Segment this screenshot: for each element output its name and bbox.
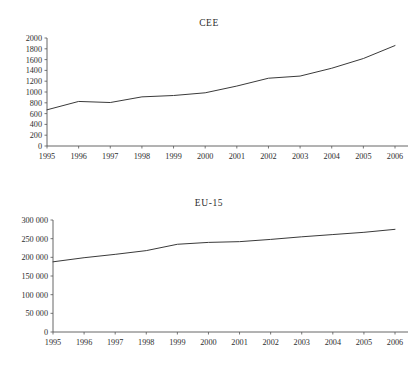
x-tick-label: 1995 [45, 338, 61, 347]
y-tick-label: 1800 [26, 45, 42, 54]
x-tick-label: 1999 [165, 152, 181, 161]
x-tick-label: 1996 [70, 152, 86, 161]
y-tick-label: 1400 [26, 66, 42, 75]
x-tick-label: 1999 [169, 338, 185, 347]
x-tick-label: 2004 [324, 152, 340, 161]
x-tick-label: 2001 [229, 152, 245, 161]
x-tick-label: 2006 [387, 338, 403, 347]
x-tick-label: 2005 [356, 338, 372, 347]
y-tick-label: 150 000 [21, 272, 48, 281]
plot-area-cee: 0200400600800100012001400160018002000199… [0, 30, 418, 200]
line-chart-cee: 0200400600800100012001400160018002000199… [0, 30, 418, 200]
x-tick-label: 2000 [197, 152, 213, 161]
y-tick-label: 600 [30, 110, 42, 119]
x-tick-label: 2003 [294, 338, 310, 347]
y-tick-label: 800 [30, 99, 42, 108]
y-tick-label: 400 [30, 120, 42, 129]
chart-panel-cee: CEE 020040060080010001200140016001800200… [0, 0, 418, 190]
x-tick-label: 2002 [262, 338, 278, 347]
x-tick-label: 2005 [355, 152, 371, 161]
x-tick-label: 2002 [260, 152, 276, 161]
line-chart-eu15: 050 000100 000150 000200 000250 000300 0… [0, 210, 418, 375]
x-tick-label: 2003 [292, 152, 308, 161]
y-tick-label: 0 [38, 142, 42, 151]
chart-panel-eu15: EU-15 050 000100 000150 000200 000250 00… [0, 190, 418, 376]
y-tick-label: 50 000 [25, 309, 48, 318]
y-tick-label: 200 [30, 131, 42, 140]
data-series-line [53, 229, 395, 261]
y-tick-label: 1000 [26, 88, 42, 97]
y-tick-label: 250 000 [21, 235, 48, 244]
plot-area-eu15: 050 000100 000150 000200 000250 000300 0… [0, 210, 418, 375]
x-tick-label: 2001 [231, 338, 247, 347]
x-tick-label: 1997 [107, 338, 123, 347]
y-tick-label: 200 000 [21, 253, 48, 262]
y-tick-label: 100 000 [21, 291, 48, 300]
y-tick-label: 0 [44, 328, 48, 337]
x-tick-label: 1998 [138, 338, 154, 347]
x-tick-label: 2004 [325, 338, 341, 347]
y-tick-label: 1200 [26, 77, 42, 86]
x-tick-label: 1995 [39, 152, 55, 161]
chart-title-cee: CEE [0, 0, 418, 30]
chart-title-eu15: EU-15 [0, 190, 418, 210]
x-tick-label: 1997 [102, 152, 118, 161]
y-tick-label: 2000 [26, 34, 42, 43]
data-series-line [47, 46, 395, 110]
y-tick-label: 300 000 [21, 216, 48, 225]
x-tick-label: 2006 [387, 152, 403, 161]
x-tick-label: 1998 [134, 152, 150, 161]
x-tick-label: 1996 [76, 338, 92, 347]
y-tick-label: 1600 [26, 56, 42, 65]
x-tick-label: 2000 [200, 338, 216, 347]
